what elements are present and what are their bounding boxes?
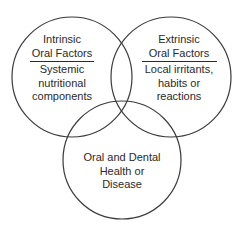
- extrinsic-divider: [142, 61, 217, 62]
- outcome-line-2: Health or: [82, 165, 162, 179]
- intrinsic-body-line-1: Systemic: [27, 63, 97, 77]
- intrinsic-body-line-2: nutritional: [27, 77, 97, 91]
- outcome-label: Oral and Dental Health or Disease: [82, 151, 162, 192]
- intrinsic-heading-line-1: Intrinsic: [27, 33, 97, 47]
- intrinsic-heading-line-2: Oral Factors: [27, 47, 97, 61]
- extrinsic-body-line-3: reactions: [137, 90, 221, 104]
- outcome-line-3: Disease: [82, 178, 162, 192]
- extrinsic-label: Extrinsic Oral Factors Local irritants, …: [137, 33, 221, 104]
- intrinsic-divider: [30, 61, 94, 62]
- extrinsic-heading-line-1: Extrinsic: [137, 33, 221, 47]
- extrinsic-body-line-1: Local irritants,: [137, 63, 221, 77]
- extrinsic-body-line-2: habits or: [137, 77, 221, 91]
- outcome-line-1: Oral and Dental: [82, 151, 162, 165]
- extrinsic-heading-line-2: Oral Factors: [137, 47, 221, 61]
- intrinsic-label: Intrinsic Oral Factors Systemic nutritio…: [27, 33, 97, 104]
- venn-diagram: Intrinsic Oral Factors Systemic nutritio…: [0, 0, 237, 232]
- intrinsic-body-line-3: components: [27, 90, 97, 104]
